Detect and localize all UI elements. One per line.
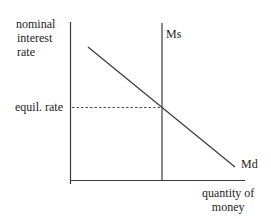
y-axis-label-line: nominal <box>16 17 66 31</box>
money-market-diagram: nominal interest rate equil. rate Ms Md … <box>0 0 271 219</box>
y-axis-label: nominal interest rate <box>16 17 66 59</box>
y-axis-label-line: rate <box>16 45 66 59</box>
x-axis-label-line: quantity of <box>202 186 254 200</box>
x-axis-label-line: money <box>202 200 254 214</box>
money-demand-label: Md <box>241 157 258 171</box>
x-axis-label: quantity of money <box>202 186 254 214</box>
money-supply-label: Ms <box>166 27 181 41</box>
equilibrium-rate-label: equil. rate <box>15 100 63 114</box>
y-axis-label-line: interest <box>16 31 66 45</box>
